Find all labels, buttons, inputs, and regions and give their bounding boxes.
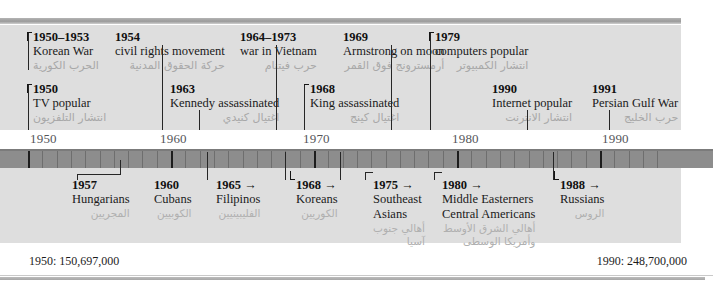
top-divider-rule [0,18,681,24]
ruler-year-tick [557,151,558,168]
ruler-year-tick [114,151,115,168]
timeline-infographic: 1950–1953 Korean War الحرب الكورية 1954 … [0,0,713,283]
migration-label-arabic: المجريين [72,207,130,220]
connector-line [365,172,366,180]
migration-label-arabic: أهالي الشرق الأوسط [442,222,535,235]
ruler-year-tick [228,151,229,168]
ruler-year-tick [614,151,615,168]
ruler-year-tick [443,151,444,168]
timeline-ruler [0,149,713,168]
migration-group-russians: 1988 → Russians الروس [560,178,604,220]
migration-group-cubans: 1960 Cubans الكوبيين [154,178,192,220]
ruler-year-tick [586,151,587,168]
connector-line [609,110,610,131]
migration-group-southeast-asians: 1975 → Southeast Asians أهالي جنوب آسيا [373,178,425,248]
migration-year: 1980 → [442,178,535,192]
bottom-divider-rule [0,277,705,280]
migration-label: Koreans [296,192,338,207]
event-war-in-vietnam: 1964–1973 war in Vietnam حرب فيتنام [240,30,317,73]
migration-label: Cubans [154,192,192,207]
migration-group-koreans: 1968 → Koreans الكوريين [296,178,338,220]
event-label: computers popular [435,44,528,59]
event-persian-gulf-war: 1991 Persian Gulf War حرب الخليج [592,82,678,125]
event-year: 1950 [33,82,106,96]
event-year: 1964–1973 [240,30,317,44]
event-year: 1979 [435,30,528,44]
ruler-year-tick [657,151,658,168]
event-tv-popular: 1950 TV popular انتشار التلفزيون [33,82,106,125]
event-year: 1990 [492,82,572,96]
connector-line [162,45,163,131]
ruler-year-tick [214,151,215,168]
connector-line [207,152,208,180]
migration-group-hungarians: 1957 Hungarians المجريين [72,178,130,220]
decade-label-strip: 1950 1960 1970 1980 1990 [0,130,713,149]
migration-year: 1957 [72,178,130,192]
event-label-arabic: انتشار التلفزيون [33,111,106,125]
connector-line [120,160,121,174]
migration-group-middle-easterners-central-americans: 1980 → Middle Easterners Central America… [442,178,535,248]
ruler-year-tick [428,151,429,168]
ruler-decade-tick [600,151,602,168]
ruler-year-tick [643,151,644,168]
ruler-year-tick [300,151,301,168]
bracket-tick-icon [554,179,559,180]
ruler-year-tick [571,151,572,168]
connector-line [434,172,442,173]
ruler-year-tick [371,151,372,168]
connector-line [28,33,29,70]
migration-label-line2: Central Americans [442,207,535,222]
migration-label-arabic: أهالي جنوب [373,222,425,235]
ruler-year-tick [200,151,201,168]
event-label: Korean War [33,44,99,59]
event-label-arabic: اغتيال كنيدي [170,111,279,125]
decade-label-1980: 1980 [452,131,479,147]
ruler-year-tick [328,151,329,168]
event-year: 1968 [310,82,399,96]
ruler-year-tick [529,151,530,168]
ruler-year-tick [42,151,43,168]
connector-line [365,172,373,173]
ruler-year-tick [471,151,472,168]
ruler-year-tick [157,151,158,168]
ruler-year-tick [185,151,186,168]
ruler-year-tick [257,151,258,168]
migration-label: Filipinos [216,192,260,207]
ruler-year-tick [486,151,487,168]
event-label-arabic: الحرب الكورية [33,59,99,73]
ruler-year-tick [343,151,344,168]
ruler-decade-tick [314,151,316,168]
ruler-year-tick [514,151,515,168]
decade-label-1970: 1970 [303,131,330,147]
ruler-year-tick [500,151,501,168]
ruler-year-tick [142,151,143,168]
event-label: war in Vietnam [240,44,317,59]
decade-label-1950: 1950 [30,131,57,147]
event-korean-war: 1950–1953 Korean War الحرب الكورية [33,30,99,73]
event-label: Kennedy assassinated [170,96,279,111]
migration-year: 1988 → [560,178,604,192]
population-1990: 1990: 248,700,000 [597,254,687,269]
migration-label-arabic: الكوبيين [154,207,192,220]
event-label: Internet popular [492,96,572,111]
ruler-year-tick [414,151,415,168]
migration-label-arabic: الروس [560,207,604,220]
event-computers-popular: 1979 computers popular انتشار الكمبيوتر [435,30,528,73]
migration-year: 1975 → [373,178,425,192]
ruler-decade-tick [171,151,173,168]
event-kennedy-assassinated: 1963 Kennedy assassinated اغتيال كنيدي [170,82,279,125]
event-label: King assassinated [310,96,399,111]
connector-line [199,110,200,131]
migration-label-arabic: الكوريين [296,207,338,220]
event-label-arabic: اغتيال كينج [310,111,399,125]
migration-label-line2: Asians [373,207,425,222]
event-civil-rights-movement: 1954 civil rights movement حركة الحقوق ا… [115,30,225,73]
migration-year: 1960 [154,178,192,192]
event-label-arabic: حرب الخليج [592,111,678,125]
migration-label: Hungarians [72,192,130,207]
ruler-year-tick [71,151,72,168]
event-king-assassinated: 1968 King assassinated اغتيال كينج [310,82,399,125]
bracket-tick-icon [290,179,295,180]
ruler-decade-tick [28,151,30,168]
connector-line [77,174,121,175]
